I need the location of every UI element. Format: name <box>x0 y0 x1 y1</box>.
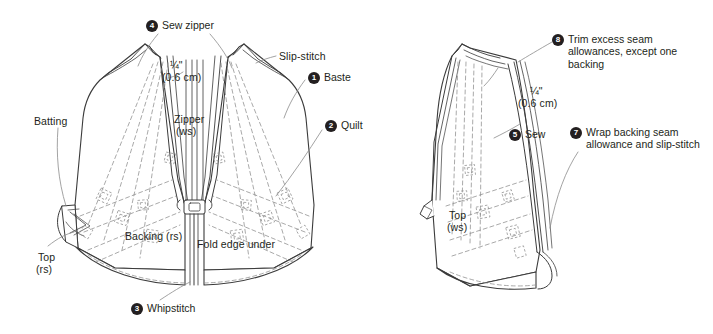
step-label-8: Trim excess seam allowances, except one … <box>568 33 684 70</box>
step-3-whipstitch: 3 Whipstitch <box>131 302 195 315</box>
step-4-sew-zipper: 4 Sew zipper <box>146 19 214 32</box>
batting-label: Batting <box>34 115 67 127</box>
step-label-4: Sew zipper <box>162 19 214 31</box>
step-badge-2: 2 <box>325 120 337 132</box>
step-1-baste: 1 Baste <box>308 71 351 84</box>
top-rs-label-line1: Top <box>38 251 55 263</box>
seam-allowance-left-line1: ¼" <box>170 59 183 71</box>
step-7-wrap-backing: 7 Wrap backing seam allowance and slip-s… <box>570 126 704 151</box>
slip-stitch-label: Slip-stitch <box>279 50 326 62</box>
step-badge-1: 1 <box>308 72 320 84</box>
backing-rs-label: Backing (rs) <box>125 230 182 242</box>
step-label-7: Wrap backing seam allowance and slip-sti… <box>586 126 704 151</box>
diagram-canvas: 4 Sew zipper ¼" (0.6 cm) Slip-stitch 1 B… <box>0 0 713 334</box>
step-5-sew: 5 Sew <box>509 128 545 141</box>
step-badge-3: 3 <box>131 303 143 315</box>
step-label-3: Whipstitch <box>147 302 195 314</box>
step-8-trim-excess: 8 Trim excess seam allowances, except on… <box>552 33 684 70</box>
seam-allowance-right-line1: ¼" <box>530 85 543 97</box>
step-label-1: Baste <box>324 71 351 83</box>
step-2-quilt: 2 Quilt <box>325 119 363 132</box>
top-ws-label-line1: Top <box>449 209 466 221</box>
step-badge-5: 5 <box>509 129 521 141</box>
seam-allowance-right-line2: (0.6 cm) <box>518 97 557 109</box>
zipper-label-line2: (ws) <box>176 125 196 137</box>
step-badge-4: 4 <box>146 20 158 32</box>
top-ws-label-line2: (ws) <box>447 221 467 233</box>
step-badge-8: 8 <box>552 34 564 46</box>
fold-edge-under-label: Fold edge under <box>197 238 275 250</box>
step-badge-7: 7 <box>570 127 582 139</box>
top-rs-label-line2: (rs) <box>36 263 52 275</box>
step-label-2: Quilt <box>341 119 363 131</box>
seam-allowance-left-line2: (0.6 cm) <box>162 71 201 83</box>
step-label-5: Sew <box>525 128 545 140</box>
zipper-label-line1: Zipper <box>174 113 204 125</box>
